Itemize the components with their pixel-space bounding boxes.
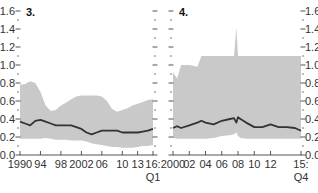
panel-title: 3. [26, 6, 35, 18]
x-tick-sublabel: Q1 [146, 171, 161, 183]
range-band [20, 81, 153, 148]
y-tick-label-right: 1.2 [305, 41, 318, 53]
x-tick-label: 04 [199, 158, 211, 170]
x-tick-label: 06 [216, 158, 228, 170]
y-tick-label-left: 0.0 [0, 149, 15, 161]
panel-4-chart: 200002040608101215:Q44. [161, 6, 309, 183]
y-tick-label-right: 0.6 [305, 95, 318, 107]
x-tick-label: 10 [116, 158, 128, 170]
y-tick-label-right: 0.8 [305, 77, 318, 89]
y-tick-label-left: 1.6 [0, 5, 15, 17]
x-tick-label: 02 [183, 158, 195, 170]
y-tick-label-right: 1.6 [305, 5, 318, 17]
y-tick-label-left: 0.2 [0, 131, 15, 143]
y-tick-label-left: 1.0 [0, 59, 15, 71]
x-tick-label: 12 [264, 158, 276, 170]
x-tick-label: 06 [96, 158, 108, 170]
y-tick-label-right: 1.0 [305, 59, 318, 71]
x-tick-label: 2000 [161, 158, 185, 170]
x-tick-label: 94 [34, 158, 46, 170]
y-tick-label-right: 0.2 [305, 131, 318, 143]
x-tick-label: 98 [55, 158, 67, 170]
y-tick-label-right: 1.4 [305, 23, 318, 35]
panel-title: 4. [179, 6, 188, 18]
y-tick-label-left: 1.2 [0, 41, 15, 53]
x-tick-sublabel: Q4 [294, 171, 309, 183]
y-tick-label-left: 0.4 [0, 113, 15, 125]
y-tick-label-left: 0.6 [0, 95, 15, 107]
x-tick-label: 13 [132, 158, 144, 170]
x-tick-label: 2002 [69, 158, 93, 170]
y-tick-label-right: 0.0 [305, 149, 318, 161]
x-tick-label: 08 [232, 158, 244, 170]
y-tick-label-left: 1.4 [0, 23, 15, 35]
y-tick-label-left: 0.8 [0, 77, 15, 89]
chart-canvas: 19909498200206101316:Q13. 20000204060810… [0, 0, 318, 193]
panel-3-chart: 19909498200206101316:Q13. [8, 6, 161, 183]
x-tick-label: 16: [145, 158, 160, 170]
y-tick-label-right: 0.4 [305, 113, 318, 125]
x-tick-label: 10 [248, 158, 260, 170]
